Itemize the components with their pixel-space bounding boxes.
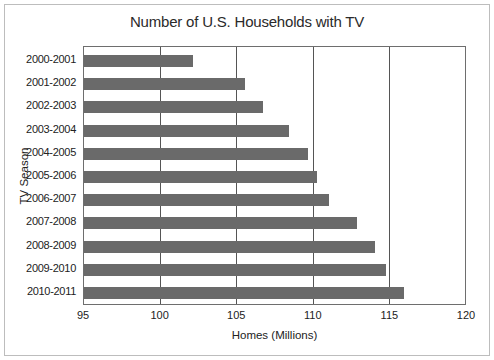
x-tick-label: 110 (304, 309, 322, 321)
x-tick-label: 95 (77, 309, 89, 321)
x-tick-label: 120 (457, 309, 475, 321)
y-tick-label: 2003-2004 (26, 123, 76, 135)
bar (84, 171, 317, 183)
y-tick-label: 2000-2001 (26, 53, 76, 65)
bar (84, 241, 375, 253)
x-tick-label: 115 (381, 309, 399, 321)
chart-title: Number of U.S. Households with TV (0, 13, 494, 30)
bar (84, 194, 329, 206)
bar (84, 264, 386, 276)
bar (84, 101, 263, 113)
y-tick-label: 2008-2009 (26, 239, 76, 251)
y-tick-label: 2007-2008 (26, 215, 76, 227)
bar (84, 78, 245, 90)
x-axis-label: Homes (Millions) (83, 329, 466, 341)
y-tick-label: 2005-2006 (26, 169, 76, 181)
y-tick-label: 2006-2007 (26, 192, 76, 204)
bar (84, 55, 193, 67)
y-tick-label: 2001-2002 (26, 76, 76, 88)
y-tick-label: 2002-2003 (26, 99, 76, 111)
gridline (389, 47, 390, 304)
plot-area (83, 46, 466, 305)
y-tick-label: 2004-2005 (26, 146, 76, 158)
y-axis-label: TV Season (18, 148, 30, 205)
y-tick-label: 2009-2010 (26, 262, 76, 274)
bar (84, 125, 289, 137)
x-tick-label: 100 (150, 309, 168, 321)
y-tick-label: 2010-2011 (27, 285, 76, 297)
x-tick-label: 105 (227, 309, 245, 321)
bar (84, 287, 404, 299)
bar (84, 148, 308, 160)
bar (84, 217, 357, 229)
